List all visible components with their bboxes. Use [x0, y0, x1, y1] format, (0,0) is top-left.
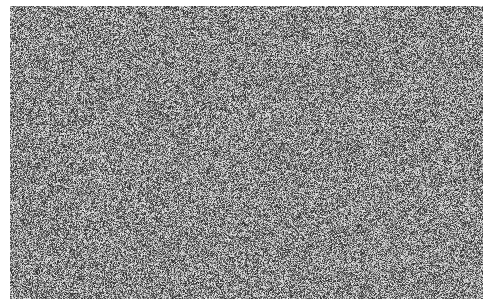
static-noise-image — [10, 6, 483, 299]
screen-frame — [0, 0, 483, 299]
